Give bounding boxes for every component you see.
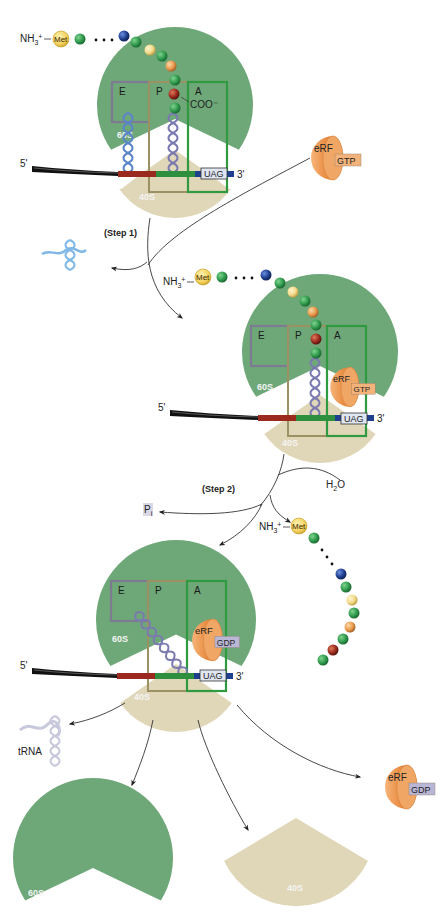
amino-acid — [345, 622, 356, 633]
released-trna-blue-strand2 — [66, 240, 71, 270]
free-60s-label: 60S — [28, 888, 44, 898]
erf-label: eRF — [314, 143, 333, 154]
small-subunit-label: 40S — [139, 192, 155, 202]
amino-acid — [261, 270, 272, 281]
chain-dot — [95, 39, 98, 42]
erf-release-arrow — [237, 705, 360, 777]
erf-label: eRF — [333, 374, 351, 384]
erf-gdp-free: eRFGDP — [385, 765, 435, 809]
site-a-label: A — [334, 330, 341, 341]
carboxyl-label: COO⁻ — [190, 99, 218, 110]
gdp-label: GDP — [411, 785, 431, 795]
released-trna-grey-strand2 — [51, 716, 56, 766]
amino-acid — [131, 37, 142, 48]
codon-e — [118, 171, 156, 177]
three-prime-label: 3' — [236, 671, 244, 682]
large-subunit-60s-free — [13, 778, 173, 900]
panel-4: tRNA60S40SeRFGDP — [13, 703, 435, 906]
site-a-label: A — [195, 86, 202, 97]
stop-codon-label: UAG — [344, 414, 364, 424]
phosphate-release-arrow — [160, 504, 262, 514]
amino-acid — [341, 582, 352, 593]
mrna-strand — [32, 166, 118, 176]
site-p-label: P — [155, 585, 162, 596]
small-subunit-label: 40S — [134, 692, 150, 702]
codon-e — [117, 673, 155, 679]
step-1-label: (Step 1) — [104, 228, 137, 238]
60s-release-arrow — [132, 720, 153, 785]
trna-release-arrow — [70, 703, 125, 724]
released-trna-blue-arm — [42, 248, 86, 254]
trna-release-arrow — [112, 262, 147, 270]
large-subunit-label: 60S — [257, 382, 273, 392]
amino-acid — [309, 533, 320, 544]
stop-codon-label: UAG — [203, 671, 223, 681]
nh3-label: NH3+ — [163, 276, 185, 289]
amino-acid — [288, 287, 299, 298]
free-40s-label: 40S — [287, 883, 303, 893]
site-a-label: A — [194, 585, 201, 596]
site-e-label: E — [258, 330, 265, 341]
amino-acid — [338, 634, 349, 645]
three-prime-label: 3' — [377, 413, 385, 424]
c-terminal-residue — [311, 334, 322, 345]
amino-acid — [347, 595, 358, 606]
panel-2: EPA60S40S5'3'UAGNH3+MeteRFGTP — [158, 269, 398, 463]
amino-acid — [311, 348, 322, 359]
released-trna-grey-arm — [20, 721, 59, 736]
trna-label: tRNA — [18, 746, 42, 757]
released-polypeptide: NH3+Met — [259, 518, 360, 666]
codon-p — [296, 415, 335, 421]
nh3-label: NH3+ — [20, 33, 42, 46]
amino-acid — [170, 75, 181, 86]
c-terminal-residue — [169, 89, 180, 100]
released-trna-blue — [70, 240, 75, 270]
step-2-label: (Step 2) — [202, 484, 235, 494]
free-40s: 40S — [224, 818, 368, 906]
amino-acid — [300, 296, 311, 307]
nh3-label: NH3+ — [259, 521, 281, 534]
gtp-label: GTP — [354, 385, 371, 394]
chain-dot — [321, 549, 324, 552]
amino-acid — [170, 103, 181, 114]
panel-3: EPA60S40S5'3'UAGeRFGDP — [20, 540, 256, 732]
amino-acid — [318, 655, 329, 666]
chain-dot — [331, 563, 334, 566]
amino-acid — [349, 608, 360, 619]
chain-dot — [243, 277, 246, 280]
small-subunit-40s — [264, 395, 375, 463]
five-prime-label: 5' — [20, 660, 28, 671]
mrna-strand — [170, 410, 258, 420]
five-prime-label: 5' — [158, 402, 166, 413]
small-subunit-40s — [119, 150, 230, 218]
site-e-label: E — [119, 86, 126, 97]
amino-acid — [157, 51, 168, 62]
gtp-label: GTP — [337, 156, 356, 166]
free-60s: 60S — [13, 778, 173, 900]
termination-diagram: EPA60S40S5'3'UAGNH3+MetCOO⁻eRFGTP(Step 1… — [0, 0, 442, 919]
amino-acid — [217, 272, 228, 283]
chain-dot — [235, 277, 238, 280]
erf-label: eRF — [388, 772, 407, 783]
large-subunit-label: 60S — [112, 634, 128, 644]
chain-dot — [326, 556, 329, 559]
stop-codon-label: UAG — [204, 169, 224, 179]
40s-release-arrow — [198, 720, 248, 830]
amino-acid — [311, 320, 322, 331]
site-p-label: P — [295, 330, 302, 341]
peptide-release-arrow — [270, 495, 290, 522]
met-label: Met — [292, 522, 306, 531]
amino-acid — [145, 45, 156, 56]
amino-acid — [166, 61, 177, 72]
chain-dot — [103, 39, 106, 42]
amino-acid — [75, 34, 86, 45]
codon-e — [258, 415, 296, 421]
gdp-label: GDP — [217, 638, 236, 648]
amino-acid — [308, 307, 319, 318]
step-2-line — [260, 454, 284, 506]
codon-p — [155, 673, 194, 679]
small-subunit-label: 40S — [282, 438, 298, 448]
c-terminal-residue — [328, 645, 339, 656]
five-prime-label: 5' — [20, 158, 28, 169]
step-2-arrows: H2O(Step 2)Pi — [143, 454, 345, 545]
